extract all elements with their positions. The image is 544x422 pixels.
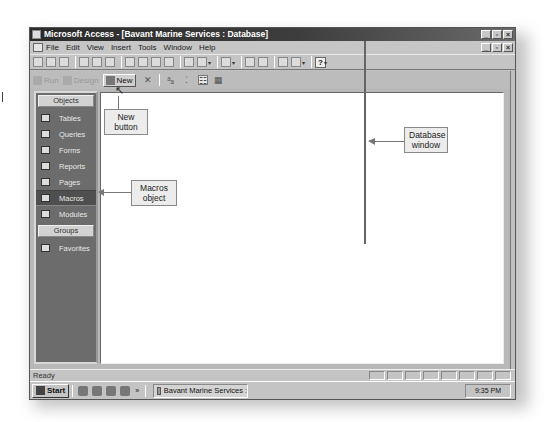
status-panel bbox=[387, 371, 403, 380]
object-forms[interactable]: Forms bbox=[36, 142, 96, 158]
mouse-pointer-icon: ↖ bbox=[115, 84, 124, 97]
status-panel bbox=[495, 371, 511, 380]
minimize-button[interactable]: _ bbox=[481, 30, 491, 39]
design-button[interactable]: Design bbox=[63, 76, 99, 85]
menu-bar: File Edit View Insert Tools Window Help … bbox=[30, 41, 515, 54]
spelling-icon[interactable] bbox=[105, 57, 115, 67]
show-desktop-icon[interactable] bbox=[106, 386, 116, 396]
object-tables[interactable]: Tables bbox=[36, 110, 96, 126]
quick-launch-chevron[interactable]: » bbox=[135, 387, 139, 394]
callout-line-new bbox=[118, 96, 119, 109]
relationships-icon[interactable] bbox=[278, 57, 288, 67]
code-icon[interactable] bbox=[245, 57, 255, 67]
menu-help[interactable]: Help bbox=[199, 43, 215, 52]
table-icon bbox=[41, 114, 50, 122]
menu-tools[interactable]: Tools bbox=[138, 43, 157, 52]
favorites-icon bbox=[41, 244, 50, 252]
large-icons-icon[interactable]: ᵃₐ bbox=[166, 75, 176, 85]
delete-icon[interactable]: ✕ bbox=[143, 75, 153, 85]
status-panel bbox=[405, 371, 421, 380]
undo-icon[interactable] bbox=[184, 57, 194, 67]
list-icon[interactable]: ☷ bbox=[198, 75, 208, 85]
database-doc-icon[interactable] bbox=[33, 43, 43, 52]
close-button[interactable]: × bbox=[503, 30, 513, 39]
taskbar: Start » Bavant Marine Services : 9:35 PM bbox=[30, 381, 515, 399]
object-label: Pages bbox=[59, 178, 80, 187]
open-icon[interactable] bbox=[46, 57, 56, 67]
office-links-icon[interactable] bbox=[197, 57, 207, 67]
menu-insert[interactable]: Insert bbox=[111, 43, 131, 52]
status-bar: Ready bbox=[30, 369, 515, 381]
objects-header[interactable]: Objects bbox=[38, 95, 94, 107]
format-painter-icon[interactable] bbox=[164, 57, 174, 67]
restore-button[interactable]: ▫ bbox=[492, 30, 502, 39]
paste-icon[interactable] bbox=[151, 57, 161, 67]
toolbar-separator bbox=[241, 56, 242, 68]
object-queries[interactable]: Queries bbox=[36, 126, 96, 142]
status-panel bbox=[369, 371, 385, 380]
dropdown-arrow-icon[interactable]: ▾ bbox=[208, 59, 211, 66]
run-label: Run bbox=[44, 76, 59, 85]
print-icon[interactable] bbox=[79, 57, 89, 67]
print-preview-icon[interactable] bbox=[92, 57, 102, 67]
database-window: Run Design New ✕ ᵃₐ ⁚ ☷ ▦ Objects Tables… bbox=[30, 71, 511, 369]
module-icon bbox=[41, 210, 50, 218]
access-task-icon bbox=[157, 387, 161, 395]
doc-close-button[interactable]: × bbox=[503, 43, 513, 52]
menu-window[interactable]: Window bbox=[164, 43, 192, 52]
menu-file[interactable]: File bbox=[46, 43, 59, 52]
status-text: Ready bbox=[33, 371, 55, 380]
properties-icon[interactable] bbox=[258, 57, 268, 67]
group-label: Favorites bbox=[59, 244, 90, 253]
menu-edit[interactable]: Edit bbox=[66, 43, 80, 52]
object-label: Forms bbox=[59, 146, 80, 155]
doc-restore-button[interactable]: ▫ bbox=[492, 43, 502, 52]
new-icon[interactable] bbox=[33, 57, 43, 67]
dropdown-arrow-icon[interactable]: ▾ bbox=[302, 59, 305, 66]
windows-logo-icon bbox=[36, 386, 45, 395]
dropdown-arrow-icon[interactable]: ▾ bbox=[324, 59, 327, 66]
design-label: Design bbox=[74, 76, 99, 85]
run-button[interactable]: Run bbox=[33, 76, 59, 85]
dropdown-arrow-icon[interactable]: ▾ bbox=[232, 59, 235, 66]
design-icon bbox=[63, 76, 72, 85]
menu-view[interactable]: View bbox=[87, 43, 104, 52]
callout-line-database bbox=[374, 141, 404, 142]
small-icons-icon[interactable]: ⁚ bbox=[182, 75, 192, 85]
toolbar-separator bbox=[75, 56, 76, 68]
window-title: Microsoft Access - [Bavant Marine Servic… bbox=[44, 29, 268, 39]
groups-header[interactable]: Groups bbox=[38, 225, 94, 237]
database-window-bracket bbox=[360, 41, 366, 244]
status-panel bbox=[477, 371, 493, 380]
object-pages[interactable]: Pages bbox=[36, 174, 96, 190]
object-reports[interactable]: Reports bbox=[36, 158, 96, 174]
cut-icon[interactable] bbox=[125, 57, 135, 67]
save-icon[interactable] bbox=[59, 57, 69, 67]
analyze-icon[interactable] bbox=[221, 57, 231, 67]
doc-minimize-button[interactable]: _ bbox=[481, 43, 491, 52]
report-icon bbox=[41, 162, 50, 170]
object-macros[interactable]: Macros bbox=[36, 190, 96, 206]
toolbar-separator bbox=[121, 56, 122, 68]
toolbar-separator bbox=[311, 56, 312, 68]
system-clock: 9:35 PM bbox=[465, 384, 511, 398]
object-label: Queries bbox=[59, 130, 85, 139]
details-icon[interactable]: ▦ bbox=[214, 75, 224, 85]
channels-icon[interactable] bbox=[120, 386, 130, 396]
new-object-icon[interactable] bbox=[291, 57, 301, 67]
run-icon bbox=[33, 76, 42, 85]
group-favorites[interactable]: Favorites bbox=[36, 240, 96, 256]
object-label: Modules bbox=[59, 210, 87, 219]
callout-database-window: Database window bbox=[404, 127, 448, 153]
callout-new-button: New button bbox=[104, 109, 148, 135]
title-bar: Microsoft Access - [Bavant Marine Servic… bbox=[30, 28, 515, 41]
database-toolbar: ▾ ▾ ▾ ? ▾ bbox=[30, 54, 515, 70]
taskbar-separator bbox=[72, 385, 73, 397]
start-button[interactable]: Start bbox=[32, 384, 69, 398]
internet-explorer-icon[interactable] bbox=[78, 386, 88, 396]
object-modules[interactable]: Modules bbox=[36, 206, 96, 222]
query-icon bbox=[41, 130, 50, 138]
taskbar-access-button[interactable]: Bavant Marine Services : bbox=[153, 384, 248, 398]
outlook-express-icon[interactable] bbox=[92, 386, 102, 396]
copy-icon[interactable] bbox=[138, 57, 148, 67]
